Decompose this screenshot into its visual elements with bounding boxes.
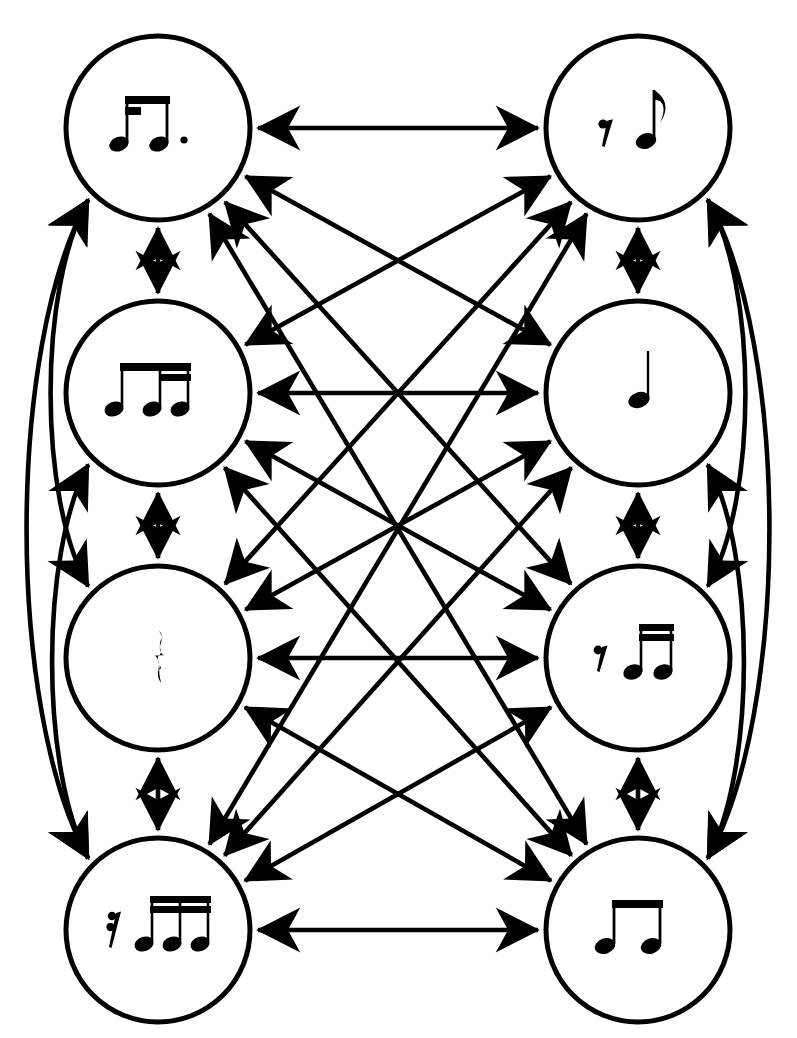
node-circle-n2[interactable] [546,36,730,220]
node-circle-n8[interactable] [546,838,730,1022]
node-n1-top-left[interactable]: dotted sixteenth and eighth note pair [66,36,250,220]
rhythm-transition-graph: dotted sixteenth and eighth note paireig… [0,0,797,1038]
node-circle-n1[interactable] [66,36,250,220]
node-n7-bottom-left[interactable]: thirty-second rest and three sixteenth n… [66,838,250,1022]
node-circle-n7[interactable] [66,838,250,1022]
node-n2-top-right[interactable]: eighth rest followed by eighth note [546,36,730,220]
diagram-canvas: dotted sixteenth and eighth note paireig… [0,0,797,1038]
node-circle-n6[interactable] [546,566,730,750]
node-circle-n5[interactable] [66,566,250,750]
node-n4-upper-middle-right[interactable]: quarter note [546,301,730,485]
edges-layer [27,128,770,930]
node-n6-lower-middle-right[interactable]: sixteenth rest and two sixteenth notes b… [546,566,730,750]
node-circle-n3[interactable] [66,301,250,485]
node-n8-bottom-right[interactable]: two eighth notes beamed [546,838,730,1022]
node-n3-upper-middle-left[interactable]: eighth note and two sixteenth notes beam… [66,301,250,485]
node-n5-lower-middle-left[interactable]: quarter rest [66,566,250,750]
